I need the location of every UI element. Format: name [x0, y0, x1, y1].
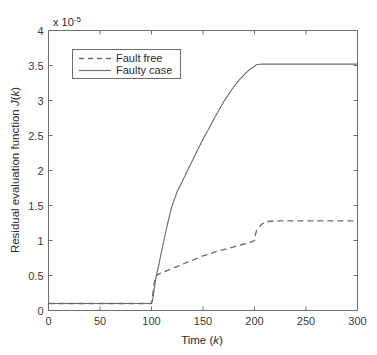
y-axis-title: Residual evaluation function J(k): [9, 87, 21, 253]
x-tick-label: 250: [297, 315, 315, 327]
y-axis-title-plain: Residual evaluation function: [9, 106, 21, 253]
legend[interactable]: Fault free Faulty case: [73, 50, 181, 79]
x-tick-label: 200: [245, 315, 263, 327]
x-tick-label: 50: [94, 315, 106, 327]
y-tick-label: 4: [37, 25, 43, 37]
legend-label-fault-free: Fault free: [116, 52, 162, 64]
y-tick-label: 3: [37, 95, 43, 107]
y-tick-label: 3.5: [28, 60, 43, 72]
legend-label-faulty-case: Faulty case: [116, 64, 172, 76]
y-axis-exponent-prefix: x 10: [53, 16, 74, 28]
y-axis-title-paren-close: ): [9, 87, 21, 91]
x-tick-label: 0: [45, 315, 51, 327]
y-tick-label: 2: [37, 165, 43, 177]
y-axis-exponent-label: x 10-5: [53, 15, 81, 28]
y-tick-label: 2.5: [28, 130, 43, 142]
y-tick-label: 1.5: [28, 200, 43, 212]
y-tick-label: 1: [37, 235, 43, 247]
y-axis-exponent-power: -5: [74, 15, 82, 24]
data-series: [49, 64, 358, 303]
series-line-faulty-case: [49, 64, 358, 303]
x-tick-label: 150: [194, 315, 212, 327]
x-tick-label: 100: [142, 315, 160, 327]
y-tick-label: 0.5: [28, 270, 43, 282]
x-tick-label: 300: [348, 315, 366, 327]
y-tick-label: 0: [37, 305, 43, 317]
chart-canvas: 00.511.522.533.54 050100150200250300 x 1…: [0, 0, 377, 355]
x-axis-title: Time (k): [181, 334, 223, 346]
series-line-fault-free: [49, 221, 358, 304]
x-axis-title-paren-close: ): [219, 334, 223, 346]
chart-figure: 00.511.522.533.54 050100150200250300 x 1…: [0, 0, 377, 355]
x-axis-title-plain: Time (: [181, 334, 213, 346]
